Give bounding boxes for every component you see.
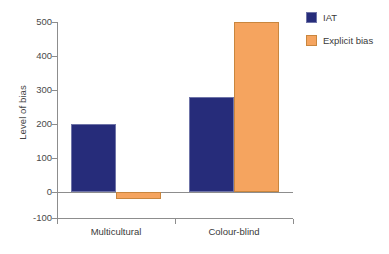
x-axis-category-label: Multicultural [57,226,175,237]
bar-chart: Level of bias 5004003002001000-100 Multi… [0,0,389,254]
legend-label-iat: IAT [323,12,337,23]
bar-iat-colour-blind [189,97,234,192]
x-axis-tick-mark [175,219,176,224]
legend-label-explicit-bias: Explicit bias [323,35,373,46]
y-axis-tick-mark [52,56,57,57]
y-axis-tick-mark [52,158,57,159]
y-axis-tick-mark [52,22,57,23]
y-axis-tick-labels: 5004003002001000-100 [14,0,52,254]
y-axis-tick-label: 500 [16,17,52,27]
zero-baseline [57,192,293,193]
y-axis-tick-mark [52,192,57,193]
y-axis-tick-label: 300 [16,85,52,95]
y-axis-tick-label: -100 [16,213,52,223]
y-axis-tick-label: 0 [16,187,52,197]
x-axis-category-label: Colour-blind [175,226,293,237]
legend-swatch-icon-iat [306,12,317,23]
y-axis-line [57,22,58,218]
x-axis-tick-mark [293,219,294,224]
y-axis-tick-mark [52,90,57,91]
bar-iat-multicultural [71,124,116,192]
bar-explicit-bias-multicultural [116,192,161,199]
y-axis-tick-mark [52,124,57,125]
legend-item-explicit-bias: Explicit bias [306,34,389,46]
y-axis-tick-label: 200 [16,119,52,129]
legend-swatch-icon-explicit-bias [306,35,317,46]
y-axis-tick-label: 100 [16,153,52,163]
y-axis-tick-label: 400 [16,51,52,61]
bar-explicit-bias-colour-blind [234,22,279,192]
legend-item-iat: IAT [306,11,389,23]
x-axis-tick-mark [57,219,58,224]
chart-legend: IAT Explicit bias [306,11,389,57]
